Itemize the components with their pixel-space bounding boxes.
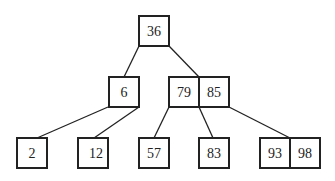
key-label: 6 xyxy=(121,85,128,100)
leaf-node-2: 2 xyxy=(17,138,47,168)
b-tree-diagram: 36 6 79 85 2 12 57 83 93 98 xyxy=(0,0,335,181)
key-label: 83 xyxy=(207,146,221,161)
edge-36-to-6 xyxy=(124,46,139,77)
tree-edges xyxy=(37,46,290,138)
key-label: 57 xyxy=(147,146,161,161)
leaf-node-93-98: 93 98 xyxy=(260,138,320,168)
leaf-node-12: 12 xyxy=(78,138,108,168)
leaf-node-57: 57 xyxy=(139,138,169,168)
edge-79-85-to-83 xyxy=(199,107,213,138)
key-label: 79 xyxy=(177,85,191,100)
key-label: 93 xyxy=(268,146,282,161)
internal-node-6: 6 xyxy=(109,77,139,107)
root-node: 36 xyxy=(139,16,169,46)
edge-6-to-2 xyxy=(37,107,108,138)
leaf-node-83: 83 xyxy=(199,138,229,168)
key-label: 2 xyxy=(29,146,36,161)
edge-6-to-12 xyxy=(94,107,139,138)
key-label: 85 xyxy=(207,85,221,100)
edge-79-85-to-93-98 xyxy=(229,107,290,138)
edge-79-85-to-57 xyxy=(154,107,169,138)
internal-node-79-85: 79 85 xyxy=(169,77,229,107)
edge-36-to-79-85 xyxy=(169,46,199,77)
key-label: 98 xyxy=(298,146,312,161)
key-label: 12 xyxy=(89,146,103,161)
key-label: 36 xyxy=(147,24,161,39)
